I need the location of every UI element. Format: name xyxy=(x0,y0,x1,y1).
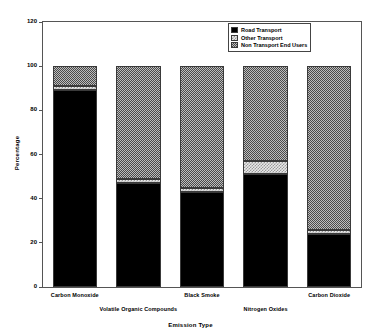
x-tick-label: Carbon Monoxide xyxy=(51,292,99,298)
y-tick-label: 40 xyxy=(30,195,37,201)
bar-segment-road-transport xyxy=(180,192,225,287)
legend-item: Road Transport xyxy=(231,27,307,34)
bar-segment-non-transport-end-users xyxy=(116,66,161,179)
x-tick-label: Carbon Dioxide xyxy=(308,292,350,298)
legend-swatch-icon xyxy=(231,42,238,48)
legend-label: Non Transport End Users xyxy=(241,42,307,48)
stacked-bar-chart: Percentage 020406080100120 Carbon Monoxi… xyxy=(0,0,381,335)
plot-area: 020406080100120 xyxy=(42,21,362,288)
legend-swatch-icon xyxy=(231,35,238,41)
bar-segment-other-transport xyxy=(180,188,225,192)
legend-label: Other Transport xyxy=(241,35,283,41)
bar-segment-other-transport xyxy=(307,230,352,234)
bar-carbon-monoxide xyxy=(53,66,98,287)
x-tick-label: Black Smoke xyxy=(184,292,219,298)
y-tick-label: 100 xyxy=(27,62,37,68)
bar-segment-other-transport xyxy=(243,161,288,174)
bar-black-smoke xyxy=(180,66,225,287)
legend-item: Other Transport xyxy=(231,34,307,41)
bar-segment-road-transport xyxy=(53,90,98,287)
y-tick-label: 0 xyxy=(34,283,37,289)
bar-nitrogen-oxides xyxy=(243,66,288,287)
bar-segment-non-transport-end-users xyxy=(307,66,352,229)
y-tick-label: 20 xyxy=(30,239,37,245)
x-axis-label: Emission Type xyxy=(0,322,381,328)
y-axis-label: Percentage xyxy=(14,113,20,193)
legend-item: Non Transport End Users xyxy=(231,42,307,49)
bar-segment-road-transport xyxy=(307,234,352,287)
legend-label: Road Transport xyxy=(241,27,282,33)
bar-segment-other-transport xyxy=(116,179,161,183)
bar-segment-road-transport xyxy=(243,174,288,287)
bar-segment-non-transport-end-users xyxy=(243,66,288,161)
y-tick-label: 60 xyxy=(30,151,37,157)
bar-series-group xyxy=(43,22,361,287)
y-tick-label: 80 xyxy=(30,106,37,112)
bar-carbon-dioxide xyxy=(307,66,352,287)
bar-segment-non-transport-end-users xyxy=(53,66,98,86)
x-tick-label: Volatile Organic Compounds xyxy=(100,306,178,312)
legend-swatch-icon xyxy=(231,27,238,33)
x-tick-label: Nitrogen Oxides xyxy=(244,306,288,312)
bar-segment-road-transport xyxy=(116,183,161,287)
chart-legend: Road TransportOther TransportNon Transpo… xyxy=(228,23,311,52)
y-tick-label: 120 xyxy=(27,18,37,24)
bar-segment-non-transport-end-users xyxy=(180,66,225,187)
bar-segment-other-transport xyxy=(53,86,98,90)
bar-volatile-organic-compounds xyxy=(116,66,161,287)
